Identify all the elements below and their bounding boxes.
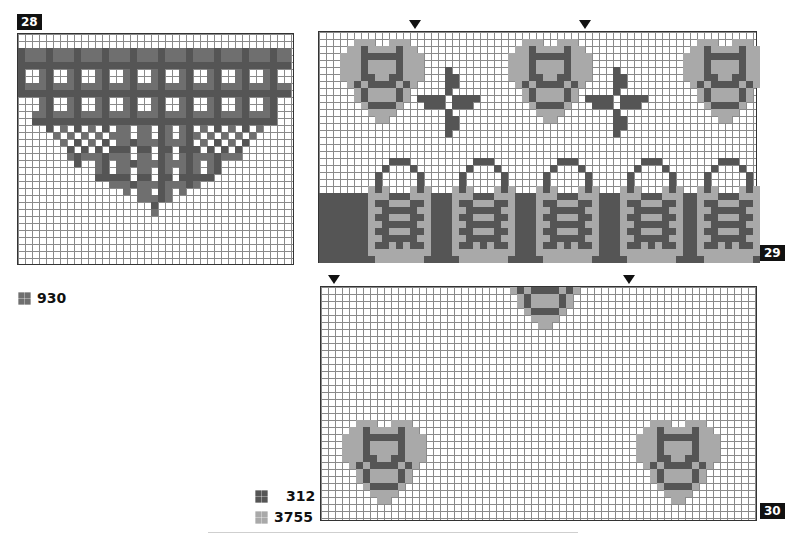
chart-30 (320, 286, 757, 521)
color-swatch-icon (18, 292, 31, 305)
chart-29 (318, 31, 757, 263)
legend-code: 930 (37, 290, 66, 306)
legend-code: 312 (286, 488, 315, 504)
center-marker-icon (328, 275, 340, 284)
legend-item-3755: 3755 (255, 509, 313, 525)
center-marker-icon (409, 20, 421, 29)
center-marker-icon (579, 20, 591, 29)
chart-number-badge-29: 29 (760, 245, 785, 261)
chart-number-badge-28: 28 (17, 14, 42, 30)
chart-28 (17, 33, 294, 265)
color-swatch-icon (255, 490, 268, 503)
legend-item-930: 930 (18, 290, 66, 306)
color-swatch-icon (255, 511, 268, 524)
page-divider (208, 532, 578, 533)
chart-number-badge-30: 30 (760, 503, 785, 519)
legend-item-312: 312 (255, 488, 315, 504)
center-marker-icon (623, 275, 635, 284)
legend-code: 3755 (274, 509, 313, 525)
